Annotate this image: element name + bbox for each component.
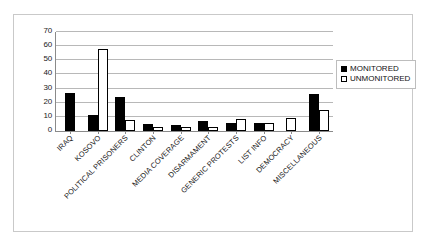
bar-group [139,32,167,131]
bar-group [111,32,139,131]
x-axis-tickmark [98,131,99,134]
y-axis-tick-label: 30 [44,84,53,92]
x-axis-tickmark [291,131,292,134]
bar-unmonitored [125,120,135,131]
y-axis-tick-label: 10 [44,112,53,120]
x-axis-tickmark [319,131,320,134]
bar-unmonitored [153,127,163,131]
plot-area: 010203040506070 [55,32,333,132]
bar-unmonitored [181,127,191,131]
bar-group [278,32,306,131]
y-axis-tick-label: 40 [44,69,53,77]
bar-monitored [143,124,153,131]
x-axis-label: IRAQ [56,134,75,153]
x-axis-tickmark [125,131,126,134]
legend-label-monitored: MONITORED [350,64,399,74]
bar-monitored [254,123,264,131]
legend-item-unmonitored: UNMONITORED [341,74,410,84]
x-axis-tickmark [153,131,154,134]
bar-monitored [226,123,236,131]
chart-frame: 010203040506070 IRAQKOSOVOPOLITICAL PRIS… [13,14,413,232]
bar-monitored [65,93,75,131]
bar-monitored [88,115,98,131]
outlined-square-icon [341,76,347,82]
x-axis-tickmark [70,131,71,134]
bar-unmonitored [98,49,108,131]
bar-group [167,32,195,131]
x-axis-tickmark [208,131,209,134]
x-axis-tickmark [236,131,237,134]
bar-series-container [56,32,333,131]
y-axis-tick-label: 60 [44,41,53,49]
filled-square-icon [341,66,347,72]
y-axis-tick-label: 70 [44,27,53,35]
bar-unmonitored [319,110,329,131]
bar-monitored [198,121,208,131]
bar-group [222,32,250,131]
legend-label-unmonitored: UNMONITORED [350,74,410,84]
bar-group [84,32,112,131]
x-axis-label: GENERIC PROTESTS [180,134,241,195]
bar-monitored [171,125,181,131]
bar-unmonitored [286,118,296,131]
y-axis-tick-label: 0 [48,126,52,134]
bar-group [250,32,278,131]
bar-group [305,32,333,131]
bar-group [56,32,84,131]
bar-monitored [309,94,319,131]
chart-legend: MONITORED UNMONITORED [336,60,416,89]
bar-unmonitored [264,123,274,131]
bar-unmonitored [236,119,246,131]
y-axis-tick-label: 20 [44,98,53,106]
y-axis-tick-label: 50 [44,55,53,63]
x-axis-tickmark [181,131,182,134]
bar-monitored [115,97,125,131]
bar-group [195,32,223,131]
bar-unmonitored [208,127,218,131]
legend-item-monitored: MONITORED [341,64,410,74]
